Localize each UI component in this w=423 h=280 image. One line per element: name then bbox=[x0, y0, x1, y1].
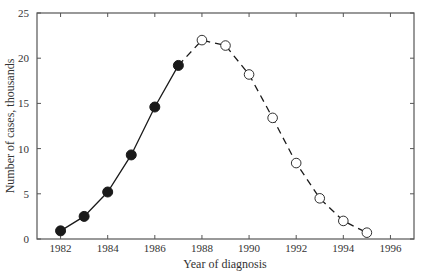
y-tick-label: 10 bbox=[18, 143, 30, 155]
chart: 19821984198619881990199219941996 0510152… bbox=[0, 0, 423, 280]
projected-line bbox=[178, 40, 367, 233]
x-tick-label: 1994 bbox=[332, 242, 355, 254]
projected-point bbox=[268, 113, 278, 123]
projected-point bbox=[244, 70, 254, 80]
observed-point bbox=[173, 60, 183, 70]
observed-point bbox=[79, 211, 89, 221]
y-tick-label: 25 bbox=[18, 7, 30, 19]
y-tick-label: 5 bbox=[24, 188, 30, 200]
x-tick-label: 1988 bbox=[191, 242, 214, 254]
observed-point bbox=[103, 187, 113, 197]
y-tick-label: 15 bbox=[18, 97, 30, 109]
x-tick-label: 1996 bbox=[379, 242, 402, 254]
x-tick-label: 1990 bbox=[238, 242, 261, 254]
observed-point bbox=[126, 150, 136, 160]
x-tick-label: 1986 bbox=[144, 242, 167, 254]
y-axis-label: Number of cases, thousands bbox=[3, 58, 17, 193]
projected-point bbox=[221, 41, 231, 51]
projected-point bbox=[315, 194, 325, 204]
x-tick-label: 1984 bbox=[97, 242, 120, 254]
observed-line bbox=[61, 65, 179, 230]
y-tick-label: 20 bbox=[18, 52, 30, 64]
x-tick-label: 1992 bbox=[285, 242, 307, 254]
projected-point bbox=[362, 228, 372, 238]
projected-point bbox=[197, 35, 207, 45]
y-tick-label: 0 bbox=[24, 233, 30, 245]
x-tick-label: 1982 bbox=[50, 242, 72, 254]
observed-point bbox=[150, 102, 160, 112]
data-series bbox=[56, 35, 372, 237]
projected-point bbox=[291, 158, 301, 168]
projected-point bbox=[339, 216, 349, 226]
x-axis-label: Year of diagnosis bbox=[183, 257, 267, 271]
observed-point bbox=[56, 226, 66, 236]
